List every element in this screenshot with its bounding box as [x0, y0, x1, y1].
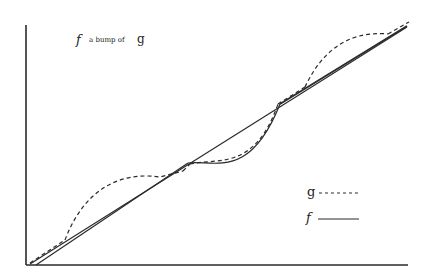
curve-g-bump-3	[305, 34, 388, 87]
legend-label-g: g	[307, 184, 315, 199]
title-g: g	[137, 32, 145, 46]
curve-g-segment-3	[278, 87, 305, 104]
legend: g f	[305, 184, 359, 225]
bump-diagram: f a bump of g g f	[0, 0, 431, 280]
title-middle: a bump of	[89, 36, 126, 44]
legend-label-f: f	[305, 210, 313, 225]
title-f: f	[75, 32, 83, 47]
curve-f	[30, 26, 407, 265]
curve-f-bump	[188, 104, 280, 163]
diagonal-line	[30, 27, 407, 264]
curve-g	[30, 22, 409, 263]
figure-title: f a bump of g	[75, 32, 145, 47]
curve-g-segment-1	[30, 240, 65, 263]
curve-f-segment-2	[280, 26, 407, 104]
